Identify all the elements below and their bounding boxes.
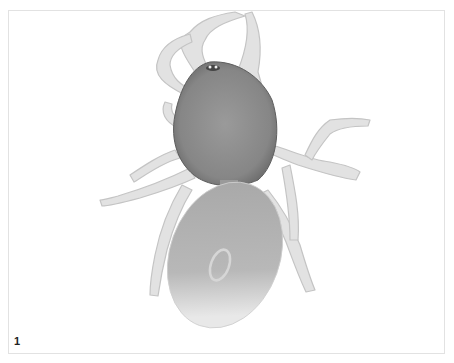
eye-region [206, 65, 220, 71]
leg-right-2-tarsus [305, 119, 370, 161]
spider-specimen-image [0, 0, 454, 363]
carapace [174, 62, 277, 186]
figure-number-label: 1 [14, 335, 20, 347]
abdomen [148, 166, 303, 345]
